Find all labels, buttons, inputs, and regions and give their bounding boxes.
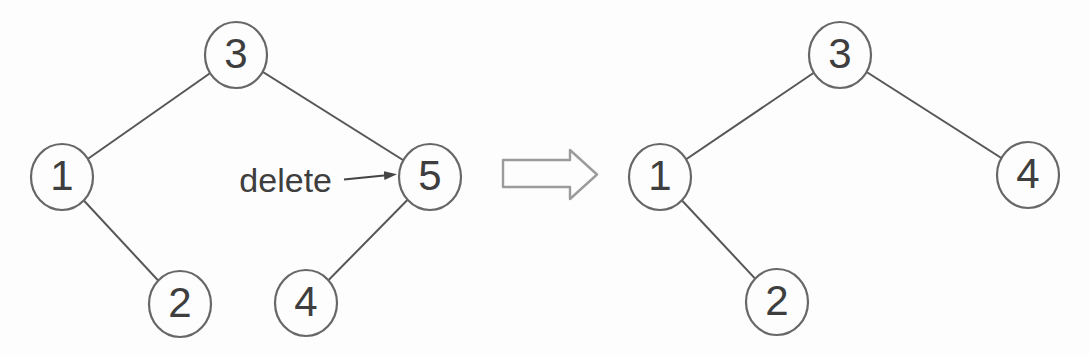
- tree-edge: [236, 55, 430, 177]
- tree-node-5: 5: [399, 144, 461, 210]
- node-label: 3: [224, 30, 247, 77]
- right-block-arrow-icon: [503, 150, 597, 199]
- tree-node-3: 3: [205, 22, 267, 88]
- tree-edge: [840, 55, 1028, 175]
- tree-node-2: 2: [149, 271, 211, 337]
- tree-node-2: 2: [746, 269, 808, 335]
- node-label: 4: [294, 278, 317, 325]
- tree-node-1: 1: [31, 144, 93, 210]
- tree-after-deletion: 3142: [629, 22, 1059, 335]
- diagram-svg: 31524 3142 delete: [0, 0, 1089, 356]
- transform-arrow: [503, 150, 597, 199]
- tree-node-4: 4: [275, 270, 337, 336]
- delete-arrow: [344, 176, 384, 180]
- tree-node-1: 1: [629, 144, 691, 210]
- node-label: 2: [765, 277, 788, 324]
- node-label: 1: [50, 152, 73, 199]
- node-label: 2: [168, 279, 191, 326]
- node-label: 1: [648, 152, 671, 199]
- tree-node-4: 4: [997, 142, 1059, 208]
- node-label: 4: [1016, 150, 1039, 197]
- binary-tree-delete-diagram: 31524 3142 delete: [0, 0, 1089, 356]
- delete-label: delete: [239, 161, 332, 199]
- delete-annotation: delete: [239, 161, 384, 199]
- node-label: 3: [828, 30, 851, 77]
- node-label: 5: [418, 152, 441, 199]
- tree-node-3: 3: [809, 22, 871, 88]
